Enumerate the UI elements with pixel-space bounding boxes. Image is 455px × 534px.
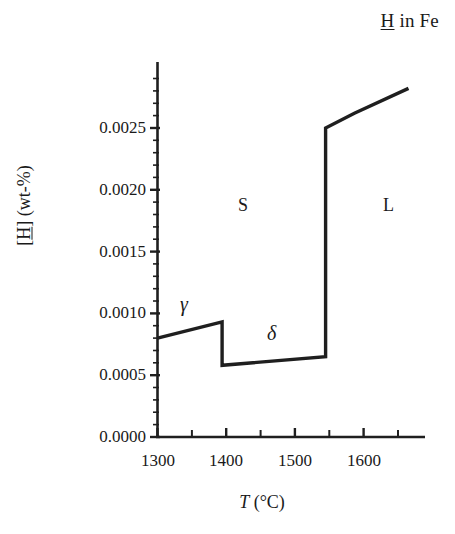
solid-region-label: S: [238, 196, 248, 214]
gamma-phase-label: γ: [180, 295, 188, 313]
solubility-curve: [158, 88, 409, 365]
delta-phase-label: δ: [267, 324, 276, 342]
y-axis-title-bracket-open: [: [14, 240, 34, 246]
x-axis-title-unit: (°C): [249, 492, 285, 512]
x-axis-title-symbol: T: [239, 492, 249, 512]
liquid-region-label: L: [383, 196, 394, 214]
x-axis-title: T (°C): [157, 492, 367, 513]
y-axis-title: [H] (wt-%): [14, 126, 35, 286]
y-axis-title-h: H: [14, 227, 34, 240]
figure-canvas: H in Fe: [0, 0, 455, 534]
y-axis-title-rest: ] (wt-%): [14, 165, 34, 226]
